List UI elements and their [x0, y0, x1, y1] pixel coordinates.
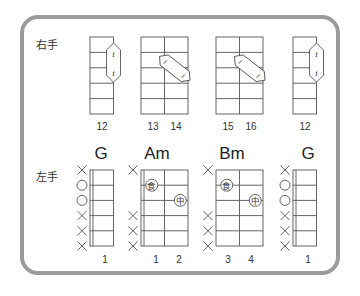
beat-number: 4: [248, 254, 254, 265]
svg-text:i: i: [112, 50, 115, 59]
open-mark: [77, 180, 87, 190]
chord-name: G: [94, 144, 107, 164]
chord-chart: 右手 左手 iiiiiiii食中食中 121314151612G1Am12Bm3…: [0, 0, 360, 296]
chord-diagram-am: 食中: [129, 166, 189, 251]
beat-number: 12: [96, 121, 107, 132]
beat-number: 12: [299, 121, 310, 132]
open-mark: [77, 195, 87, 205]
beat-number: 3: [225, 254, 231, 265]
right-hand-diagram: ii: [141, 37, 194, 114]
beat-number: 1: [305, 254, 311, 265]
svg-text:i: i: [315, 69, 318, 78]
beat-number: 14: [170, 121, 181, 132]
beat-number: 13: [147, 121, 158, 132]
right-hand-diagram: ii: [216, 37, 269, 114]
svg-text:食: 食: [147, 181, 156, 191]
beat-number: 1: [102, 254, 108, 265]
beat-number: 2: [176, 254, 182, 265]
beat-number: 16: [245, 121, 256, 132]
chord-diagram-g: [280, 166, 317, 251]
svg-text:食: 食: [222, 181, 231, 191]
chord-name: G: [301, 144, 314, 164]
open-mark: [280, 180, 290, 190]
svg-text:中: 中: [251, 196, 260, 206]
svg-text:中: 中: [176, 196, 185, 206]
svg-text:i: i: [112, 69, 115, 78]
right-hand-diagram: ii: [90, 37, 121, 114]
chord-diagram-bm: 食中: [204, 166, 264, 251]
open-mark: [280, 195, 290, 205]
beat-number: 15: [222, 121, 233, 132]
beat-number: 1: [153, 254, 159, 265]
chord-name: Am: [144, 144, 170, 164]
svg-text:i: i: [315, 50, 318, 59]
right-hand-diagram: ii: [293, 37, 324, 114]
chord-name: Bm: [219, 144, 245, 164]
chord-diagram-g: [77, 166, 114, 251]
